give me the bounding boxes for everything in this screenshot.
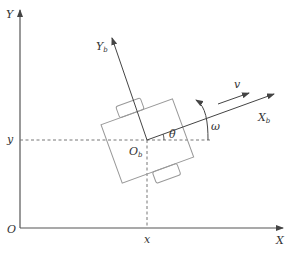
position-x-label: x	[144, 233, 151, 246]
wheel-top	[116, 98, 145, 118]
omega-label: ω	[211, 120, 220, 133]
position-y-label: y	[6, 133, 14, 146]
wheel-bottom	[152, 163, 181, 183]
body-origin-label: Ob	[129, 145, 143, 159]
world-y-label: Y	[6, 8, 15, 21]
velocity-arrow	[218, 93, 249, 104]
body-x-label: Xb	[257, 111, 271, 125]
theta-arc	[163, 134, 164, 140]
velocity-label: v	[234, 78, 241, 91]
world-origin-label: O	[7, 223, 16, 236]
robot-kinematics-diagram: Y X O y x Ob Yb Xb θ v ω	[0, 0, 287, 256]
theta-label: θ	[169, 128, 176, 141]
body-y-axis	[112, 38, 147, 140]
world-x-label: X	[275, 234, 285, 247]
body-y-label: Yb	[96, 40, 108, 54]
